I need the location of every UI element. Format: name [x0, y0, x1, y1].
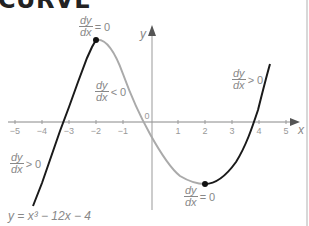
- relation: = 0: [95, 21, 111, 33]
- annotation-increasing-left: dydx > 0: [10, 152, 41, 175]
- relation: > 0: [26, 158, 42, 170]
- annotation-increasing-right: dydx > 0: [232, 68, 263, 91]
- tick-label: 0: [144, 111, 149, 121]
- tick-label: 1: [175, 126, 180, 136]
- equation-label: y = x³ − 12x − 4: [8, 209, 91, 223]
- dx: dx: [80, 27, 92, 38]
- cubic-graph: [0, 0, 309, 226]
- dx: dx: [233, 80, 245, 91]
- relation: < 0: [111, 86, 127, 98]
- tick-label: 3: [229, 126, 234, 136]
- y-axis-label: y: [140, 28, 146, 40]
- annotation-decreasing: dydx < 0: [95, 80, 126, 103]
- x-axis-label: x: [298, 124, 304, 136]
- dx: dx: [185, 197, 197, 208]
- tick-label: −3: [64, 126, 74, 136]
- tick-label: −1: [118, 126, 128, 136]
- tick-label: 2: [202, 126, 207, 136]
- y-axis-arrow-icon: [148, 25, 156, 36]
- curve-decreasing: [96, 40, 205, 184]
- tick-label: −5: [10, 126, 20, 136]
- tick-label: 5: [283, 126, 288, 136]
- relation: > 0: [248, 74, 264, 86]
- dx: dx: [11, 164, 23, 175]
- relation: = 0: [200, 191, 216, 203]
- tick-label: −4: [37, 126, 47, 136]
- tick-label: −2: [91, 126, 101, 136]
- tick-label: 4: [256, 126, 261, 136]
- annotation-min: dydx = 0: [184, 185, 215, 208]
- dx: dx: [96, 92, 108, 103]
- annotation-max: dydx = 0: [79, 15, 110, 38]
